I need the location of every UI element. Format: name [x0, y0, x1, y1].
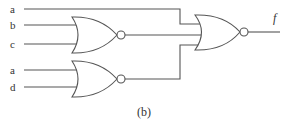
output-label-f: f — [273, 11, 278, 25]
nor-gate-3 — [195, 15, 248, 50]
figure-caption: (b) — [137, 105, 151, 119]
logic-circuit-diagram: a b c a d f (b) — [0, 0, 293, 126]
wire-nor2-to-nor3 — [125, 45, 203, 79]
nor-gate-2 — [72, 61, 125, 97]
input-label-a-bottom: a — [10, 64, 15, 76]
input-label-a-top: a — [10, 3, 15, 15]
nor-gate-1 — [72, 17, 125, 53]
wire-a-to-nor3 — [24, 9, 203, 24]
input-label-b: b — [10, 19, 16, 31]
input-label-d: d — [10, 81, 16, 93]
input-label-c: c — [10, 38, 15, 50]
